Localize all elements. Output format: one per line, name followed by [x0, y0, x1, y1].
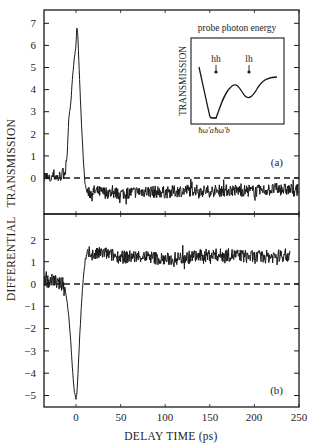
x-tick-250: 250 [291, 411, 308, 423]
inset-lh-label: lh [245, 54, 253, 64]
figure: 7 6 5 4 3 2 1 0 2 1 0 −1 −2 −3 −4 −5 0 5… [0, 0, 317, 448]
inset-tick-b: ħω'b [214, 126, 229, 135]
panel-b-label: (b) [270, 384, 283, 397]
inset-y-label: TRANSMISSION [178, 46, 188, 116]
y-tick-b-m1: −1 [24, 300, 36, 312]
y-tick-b-m3: −3 [24, 345, 36, 357]
x-tick-200: 200 [246, 411, 263, 423]
inset-hh-label: hh [211, 54, 221, 64]
inset-title: probe photon energy [198, 23, 277, 33]
panel-b-frame [44, 214, 299, 407]
panel-b-y-tick-labels: 2 1 0 −1 −2 −3 −4 −5 [24, 234, 36, 401]
y-tick-a-7: 7 [31, 17, 37, 29]
inset-tick-a: ħω'a [198, 126, 213, 135]
y-tick-b-1: 1 [31, 256, 37, 268]
y-tick-a-0: 0 [31, 172, 37, 184]
panel-b-trace [44, 245, 290, 399]
y-tick-a-6: 6 [31, 39, 37, 51]
inset: probe photon energy TRANSMISSION hh lh ħ… [178, 23, 284, 135]
inset-frame [191, 38, 284, 124]
x-tick-50: 50 [116, 411, 128, 423]
y-tick-b-0: 0 [31, 278, 37, 290]
x-tick-0: 0 [73, 411, 79, 423]
x-tick-100: 100 [157, 411, 174, 423]
y-tick-a-5: 5 [31, 61, 37, 73]
panel-a-label: (a) [271, 156, 284, 169]
x-axis-title: DELAY TIME (ps) [124, 430, 218, 443]
y-tick-b-m2: −2 [24, 322, 36, 334]
x-tick-150: 150 [202, 411, 219, 423]
y-tick-b-m4: −4 [24, 367, 36, 379]
y-tick-a-3: 3 [31, 105, 37, 117]
y-tick-a-2: 2 [31, 128, 37, 140]
y-axis-title: DIFFERENTIAL TRANSMISSION [5, 119, 17, 302]
panel-a-y-tick-labels: 7 6 5 4 3 2 1 0 [31, 17, 37, 184]
y-tick-a-4: 4 [31, 83, 37, 95]
y-tick-b-2: 2 [31, 234, 37, 246]
x-tick-labels: 0 50 100 150 200 250 [73, 411, 308, 423]
y-tick-a-1: 1 [31, 150, 37, 162]
y-tick-b-m5: −5 [24, 389, 36, 401]
